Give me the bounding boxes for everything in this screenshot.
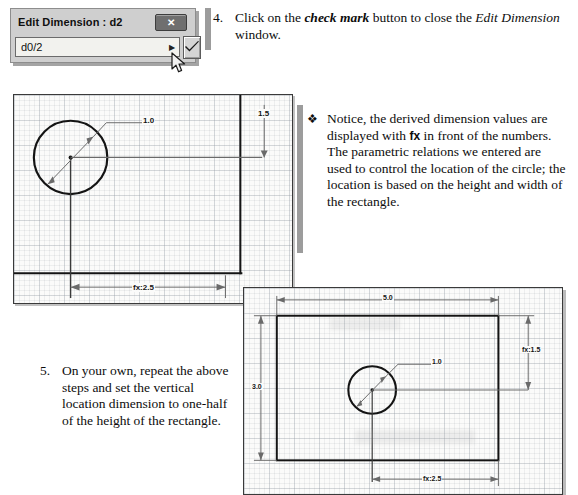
dimension-label-circle-diameter: 1.0 <box>142 116 155 125</box>
step-5-number: 5. <box>40 363 62 429</box>
sketch-geometry-upper <box>14 95 292 303</box>
margin-rule-bullet <box>297 105 303 253</box>
dimension-label-vertical-location: 1.5 <box>257 109 270 118</box>
step-4-number: 4. <box>213 10 235 43</box>
dialog-title-bar: Edit Dimension : d2 ✕ <box>15 12 191 32</box>
dialog-input-row: ▶ <box>15 36 191 58</box>
bullet-fx: fx <box>410 129 421 143</box>
hloc-arrow-left <box>372 476 380 482</box>
width-arrow-left <box>277 297 285 303</box>
width-arrow-right <box>490 297 498 303</box>
bullet-note-block: ❖ Notice, the derived dimension values a… <box>307 111 569 210</box>
scan-artifact <box>330 318 400 330</box>
page-root: Edit Dimension : d2 ✕ ▶ 4. Click on the … <box>0 0 578 495</box>
diameter-leader-elbow <box>386 364 398 376</box>
margin-rule-top <box>205 8 211 50</box>
scan-artifact <box>355 430 475 444</box>
step-4-text: Click on the check mark button to close … <box>235 10 565 43</box>
dimension-label-vertical-location: fx:1.5 <box>521 346 541 353</box>
edit-dimension-dialog[interactable]: Edit Dimension : d2 ✕ ▶ <box>10 8 196 63</box>
step4-ital: Edit Dimension <box>475 10 559 25</box>
dimension-label-horizontal-location: fx:2.5 <box>422 475 442 482</box>
dimension-label-height: 3.0 <box>251 383 263 390</box>
bullet-note-text: Notice, the derived dimension values are… <box>327 111 569 210</box>
dimension-label-horizontal-location: fx:2.5 <box>132 283 155 292</box>
step-5-text: On your own, repeat the above steps and … <box>62 363 240 429</box>
vertical-dim-arrow <box>261 150 268 157</box>
mouse-cursor-icon <box>171 52 189 74</box>
sketch-geometry-lower <box>244 288 562 494</box>
step4-p1: Click on the <box>235 10 304 25</box>
step-5-block: 5. On your own, repeat the above steps a… <box>40 363 240 429</box>
step4-emph: check mark <box>304 10 369 25</box>
height-arrow-top <box>258 316 264 324</box>
hloc-arrow-right <box>490 476 498 482</box>
vloc-arrow-bottom <box>525 382 531 390</box>
dimension-input-wrapper[interactable]: ▶ <box>15 37 180 57</box>
height-arrow-bottom <box>258 452 264 460</box>
sketch-view-lower[interactable]: 5.0 3.0 1.0 fx:1.5 fx:2.5 <box>243 287 563 495</box>
step-4-block: 4. Click on the check mark button to clo… <box>213 10 565 43</box>
horizontal-dim-arrow-right <box>217 284 226 291</box>
vloc-arrow-top <box>525 316 531 324</box>
sketch-view-upper[interactable]: 1.0 1.5 fx:2.5 <box>13 94 293 304</box>
dimension-label-circle-diameter: 1.0 <box>431 358 443 365</box>
step4-p3: window. <box>235 27 281 42</box>
close-icon[interactable]: ✕ <box>155 14 187 31</box>
dimension-input[interactable] <box>16 40 165 54</box>
diamond-bullet-icon: ❖ <box>307 111 327 210</box>
dimension-label-width: 5.0 <box>382 294 394 301</box>
step4-p2: button to close the <box>369 10 475 25</box>
horizontal-dim-arrow-left <box>71 284 80 291</box>
dialog-title: Edit Dimension : d2 <box>15 16 123 28</box>
